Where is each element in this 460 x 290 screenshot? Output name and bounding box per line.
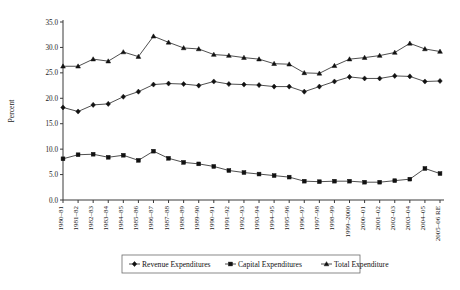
x-tick-label: 1989–90 (193, 206, 201, 231)
data-point-marker (347, 74, 352, 79)
data-point-marker (287, 84, 292, 89)
data-point-marker (61, 105, 66, 110)
data-point-marker (332, 79, 337, 84)
x-tick-label: 2001–02 (374, 206, 382, 231)
x-tick-label: 1980–81 (57, 206, 65, 231)
x-tick-label: 1986–87 (147, 206, 155, 231)
x-tick-label: 1992–93 (238, 206, 246, 231)
data-point-marker (317, 180, 321, 184)
data-point-marker (423, 167, 427, 171)
chart-legend: Revenue ExpendituresCapital Expenditures… (122, 255, 389, 273)
y-tick-label: 30.0 (45, 44, 58, 52)
data-point-marker (302, 179, 306, 183)
data-point-marker (121, 153, 125, 157)
data-point-marker (438, 172, 442, 176)
data-point-marker (363, 180, 367, 184)
x-tick-label: 1982–83 (87, 206, 95, 231)
x-tick-label: 1999–2000 (344, 206, 352, 238)
data-point-marker (151, 34, 156, 38)
data-point-marker (272, 174, 276, 178)
data-point-marker (227, 169, 231, 173)
data-point-marker (378, 180, 382, 184)
data-point-marker (287, 175, 291, 179)
data-point-marker (121, 50, 126, 54)
data-point-marker (392, 50, 397, 54)
data-point-marker (76, 109, 81, 114)
x-tick-label: 1987–88 (163, 206, 171, 231)
data-point-marker (407, 41, 412, 45)
chart-canvas: 0.05.010.015.020.025.030.035.0Percent198… (0, 0, 460, 290)
data-point-marker (182, 160, 186, 164)
data-point-marker (106, 101, 111, 106)
y-tick-label: 5.0 (49, 171, 58, 179)
y-tick-label: 0.0 (49, 197, 58, 205)
data-point-marker (152, 149, 156, 153)
data-point-marker (151, 82, 156, 87)
data-point-marker (423, 79, 428, 84)
y-tick-label: 10.0 (45, 146, 58, 154)
data-point-marker (348, 179, 352, 183)
data-point-marker (392, 73, 397, 78)
x-tick-label: 1985–86 (132, 206, 140, 231)
x-tick-label: 1983–84 (102, 206, 110, 231)
x-tick-label: 2002–03 (389, 206, 397, 231)
data-point-marker (362, 76, 367, 81)
series-path (63, 151, 440, 182)
legend-label: Revenue Expenditures (142, 260, 211, 269)
data-point-marker (257, 172, 261, 176)
y-tick-label: 35.0 (45, 19, 58, 27)
data-point-marker (317, 84, 322, 89)
x-tick-label: 1990–91 (208, 206, 216, 231)
data-point-marker (242, 171, 246, 175)
legend-label: Total Expenditure (334, 260, 389, 269)
y-tick-label: 25.0 (45, 69, 58, 77)
x-tick-label: 1988–89 (178, 206, 186, 231)
data-point-marker (91, 57, 96, 61)
data-point-marker (212, 165, 216, 169)
series-path (63, 76, 440, 112)
y-tick-label: 15.0 (45, 120, 58, 128)
data-point-marker (61, 157, 65, 161)
x-tick-label: 1994–95 (268, 206, 276, 231)
data-point-marker (91, 152, 95, 156)
legend-label: Capital Expenditures (238, 260, 302, 269)
data-point-marker (229, 262, 233, 266)
data-point-marker (393, 179, 397, 183)
expenditure-line-chart: 0.05.010.015.020.025.030.035.0Percent198… (0, 0, 460, 290)
data-point-marker (196, 83, 201, 88)
x-tick-label: 1996–97 (298, 206, 306, 231)
series-path (63, 36, 440, 73)
data-point-marker (302, 89, 307, 94)
x-tick-label: 2000–01 (359, 206, 367, 231)
data-point-marker (257, 82, 262, 87)
data-point-marker (408, 177, 412, 181)
x-tick-label: 2004–05 (419, 206, 427, 231)
x-tick-label: 1995–96 (283, 206, 291, 231)
data-point-marker (167, 156, 171, 160)
data-point-marker (166, 81, 171, 86)
x-tick-label: 2003–04 (404, 206, 412, 231)
data-point-marker (106, 155, 110, 159)
data-point-marker (181, 81, 186, 86)
y-tick-label: 20.0 (45, 95, 58, 103)
data-point-marker (272, 84, 277, 89)
data-point-marker (91, 102, 96, 107)
data-point-marker (438, 78, 443, 83)
x-tick-label: 1998–99 (328, 206, 336, 231)
data-point-marker (136, 89, 141, 94)
series-capital-expenditures (61, 149, 442, 184)
x-tick-label: 1993–94 (253, 206, 261, 231)
data-point-marker (333, 179, 337, 183)
series-total-expenditure (61, 34, 443, 75)
data-point-marker (76, 153, 80, 157)
data-point-marker (227, 81, 232, 86)
data-point-marker (242, 82, 247, 87)
x-tick-label: 2005–06 RE (434, 206, 442, 241)
data-point-marker (408, 74, 413, 79)
data-point-marker (377, 76, 382, 81)
series-revenue-expenditures (61, 73, 443, 114)
x-tick-label: 1981–82 (72, 206, 80, 231)
data-point-marker (197, 162, 201, 166)
x-tick-label: 1984–85 (117, 206, 125, 231)
data-point-marker (121, 94, 126, 99)
